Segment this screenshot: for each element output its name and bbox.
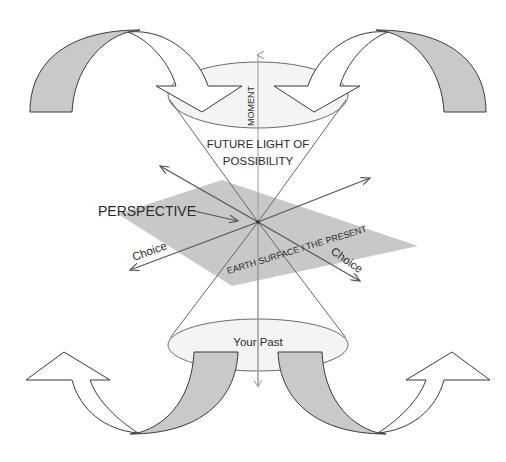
spacetime-choice-diagram: MOMENT FUTURE LIGHT OF POSSIBILITY PERSP… <box>0 0 506 462</box>
future-label-line1: FUTURE LIGHT OF <box>207 138 310 150</box>
future-label-line2: POSSIBILITY <box>223 155 294 167</box>
bottom-left-curved-arrow <box>26 352 238 434</box>
present-plane <box>118 180 418 286</box>
your-past-label: Your Past <box>233 336 283 348</box>
choice-label-left: Choice <box>131 239 169 263</box>
perspective-label: PERSPECTIVE <box>98 203 196 219</box>
moment-label: MOMENT <box>246 86 256 126</box>
bottom-right-curved-arrow <box>278 352 490 434</box>
center-point <box>256 220 260 224</box>
